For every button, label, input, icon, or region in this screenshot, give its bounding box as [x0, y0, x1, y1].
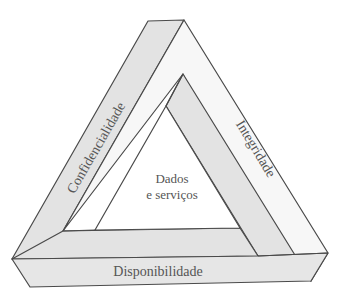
bottom-side-label: Disponibilidade — [113, 264, 202, 279]
security-triad-diagram: Confidencialidade Integridade Disponibil… — [0, 0, 341, 297]
center-label-line2: e serviços — [146, 187, 198, 202]
center-label-line1: Dados — [155, 171, 188, 186]
